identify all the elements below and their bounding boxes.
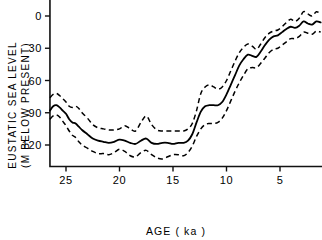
eustatic-sea-level-chart: 0306090120 252015105 AGE ( ka ) EUSTATIC… [0, 0, 322, 240]
y-axis-title-line1: EUSTATIC SEA LEVEL [7, 41, 18, 169]
mean-sea-level-line [50, 21, 321, 144]
x-tick-label-25: 25 [59, 174, 72, 186]
axes-group [45, 0, 322, 172]
upper-confidence-bound-line [50, 12, 321, 132]
lower-confidence-bound-line [50, 31, 321, 159]
x-tick-label-15: 15 [166, 174, 179, 186]
x-axis-tick-labels: 252015105 [59, 174, 283, 186]
y-tick-label-0: 0 [35, 10, 42, 22]
x-tick-label-5: 5 [277, 174, 284, 186]
x-axis-title: AGE ( ka ) [146, 225, 206, 237]
chart-figure: 0306090120 252015105 AGE ( ka ) EUSTATIC… [0, 0, 322, 240]
series-group [50, 12, 321, 159]
x-tick-label-10: 10 [220, 174, 233, 186]
y-axis-title-line2: (M BELOW PRESENT) [20, 42, 31, 168]
x-tick-label-20: 20 [113, 174, 126, 186]
